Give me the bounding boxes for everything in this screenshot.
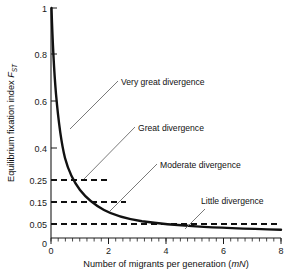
annotation-very-great-divergence: Very great divergence [121,77,205,87]
y-tick-label-0-15: 0.15 [29,198,47,208]
leader-very-great-divergence [70,81,118,129]
y-tick-label-0-8: 0.8 [34,50,47,60]
y-tick-label-0-25: 0.25 [29,176,47,186]
chart-canvas: 1 0.8 0.6 0.4 0.25 0.15 0.05 0 0 2 4 6 8 [0,0,288,269]
y-axis-title-text: Equilibrium fixation index [6,80,16,182]
y-axis-title-subscript: ST [11,63,18,72]
leader-moderate-divergence [110,164,157,211]
x-axis-title-text: Number of migrants per generation [83,259,225,269]
x-tick-label-2: 2 [106,246,111,256]
x-tick-label-4: 4 [163,246,168,256]
annotation-great-divergence: Great divergence [138,123,204,133]
svg-text:Equilibrium fixation index FST: Equilibrium fixation index FST [6,63,18,182]
annotation-moderate-divergence: Moderate divergence [160,160,241,170]
y-tick-label-0-6: 0.6 [34,97,47,107]
annotation-leader-lines [70,81,205,229]
annotation-labels: Very great divergence Great divergence M… [121,77,264,206]
svg-text:Number of migrants per generat: Number of migrants per generation (mN) [83,259,248,269]
y-axis-title-group: Equilibrium fixation index FST [6,63,18,182]
x-axis-title-group: Number of migrants per generation (mN) [83,259,248,269]
y-tick-labels: 1 0.8 0.6 0.4 0.25 0.15 0.05 0 [29,4,47,250]
x-tick-labels: 0 2 4 6 8 [48,246,283,256]
fst-migration-chart: 1 0.8 0.6 0.4 0.25 0.15 0.05 0 0 2 4 6 8 [0,0,288,269]
x-major-tick-marks [51,238,281,244]
x-tick-label-8: 8 [278,246,283,256]
leader-great-divergence [84,127,135,179]
y-tick-label-1: 1 [42,4,47,14]
x-axis-title-symbol: mN [231,259,246,269]
annotation-little-divergence: Little divergence [201,196,264,206]
x-tick-label-0: 0 [48,246,53,256]
y-tick-label-0-4: 0.4 [34,144,47,154]
y-tick-label-0-05: 0.05 [29,220,47,230]
x-tick-label-6: 6 [221,246,226,256]
y-tick-label-0: 0 [42,239,47,249]
